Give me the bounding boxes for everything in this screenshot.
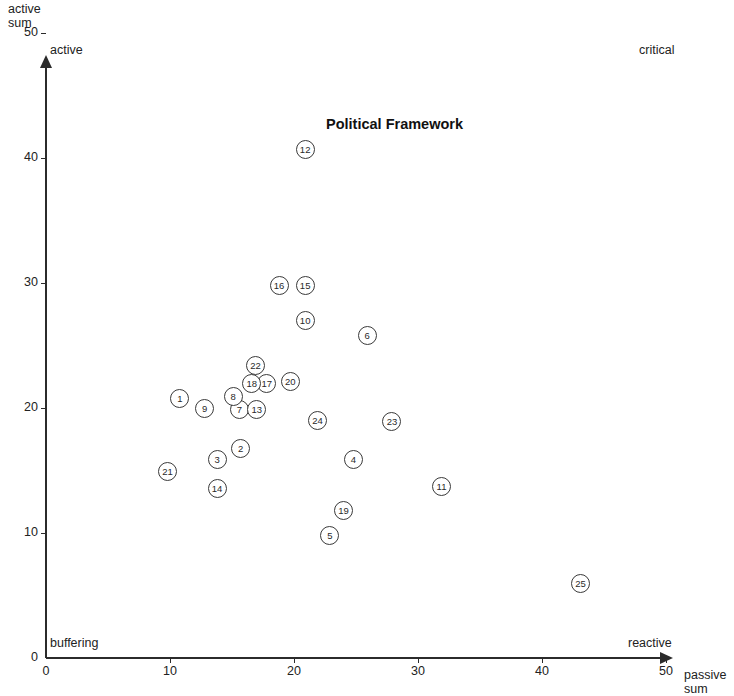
data-point-16: 16 xyxy=(270,276,289,295)
data-point-11: 11 xyxy=(432,477,451,496)
data-point-23: 23 xyxy=(382,412,401,431)
x-axis-tick xyxy=(294,658,295,663)
y-axis-tick-label: 10 xyxy=(8,525,38,539)
data-point-19: 19 xyxy=(334,501,353,520)
x-axis-tick-label: 10 xyxy=(155,664,185,678)
data-point-10: 10 xyxy=(296,311,315,330)
quadrant-label-critical: critical xyxy=(639,43,674,57)
y-axis-tick xyxy=(41,33,46,34)
x-axis-tick xyxy=(418,658,419,663)
data-point-22: 22 xyxy=(246,356,265,375)
x-axis-tick xyxy=(666,658,667,663)
data-point-12: 12 xyxy=(296,140,315,159)
y-axis-tick xyxy=(41,533,46,534)
data-point-15: 15 xyxy=(296,276,315,295)
y-axis-title-line1: active xyxy=(8,2,41,16)
y-axis-tick xyxy=(41,158,46,159)
quadrant-label-active: active xyxy=(50,43,83,57)
quadrant-label-buffering: buffering xyxy=(50,636,98,650)
data-point-9: 9 xyxy=(195,399,214,418)
data-point-25: 25 xyxy=(571,574,590,593)
x-axis-title: passive sum xyxy=(684,668,726,696)
data-point-21: 21 xyxy=(158,462,177,481)
x-axis-tick-label: 50 xyxy=(651,664,681,678)
x-axis-title-line2: sum xyxy=(684,682,708,696)
x-axis-tick xyxy=(170,658,171,663)
data-point-3: 3 xyxy=(208,450,227,469)
data-point-4: 4 xyxy=(344,450,363,469)
y-axis-tick-label: 30 xyxy=(8,275,38,289)
x-axis-tick-label: 40 xyxy=(527,664,557,678)
data-point-20: 20 xyxy=(281,372,300,391)
data-point-1: 1 xyxy=(170,389,189,408)
x-axis-tick-label: 20 xyxy=(279,664,309,678)
x-axis-tick-label: 30 xyxy=(403,664,433,678)
x-axis-tick xyxy=(542,658,543,663)
x-axis-tick-label: 0 xyxy=(31,664,61,678)
x-axis-title-line1: passive xyxy=(684,668,726,682)
data-point-14: 14 xyxy=(208,479,227,498)
data-point-8: 8 xyxy=(224,387,243,406)
y-axis-line xyxy=(45,66,47,658)
x-axis-line xyxy=(46,657,668,659)
scatter-plot-canvas: active sum passive sum 01020304050010203… xyxy=(0,0,734,696)
chart-title: Political Framework xyxy=(326,116,463,132)
data-point-2: 2 xyxy=(231,439,250,458)
data-point-24: 24 xyxy=(308,411,327,430)
y-axis-tick xyxy=(41,283,46,284)
data-point-13: 13 xyxy=(247,400,266,419)
data-point-5: 5 xyxy=(320,526,339,545)
y-axis-tick-label: 20 xyxy=(8,400,38,414)
quadrant-label-reactive: reactive xyxy=(628,636,672,650)
y-axis-tick-label: 40 xyxy=(8,150,38,164)
y-axis-tick xyxy=(41,408,46,409)
y-axis-tick-label: 50 xyxy=(8,25,38,39)
data-point-18: 18 xyxy=(242,374,261,393)
data-point-6: 6 xyxy=(358,326,377,345)
y-axis-tick-label: 0 xyxy=(8,650,38,664)
